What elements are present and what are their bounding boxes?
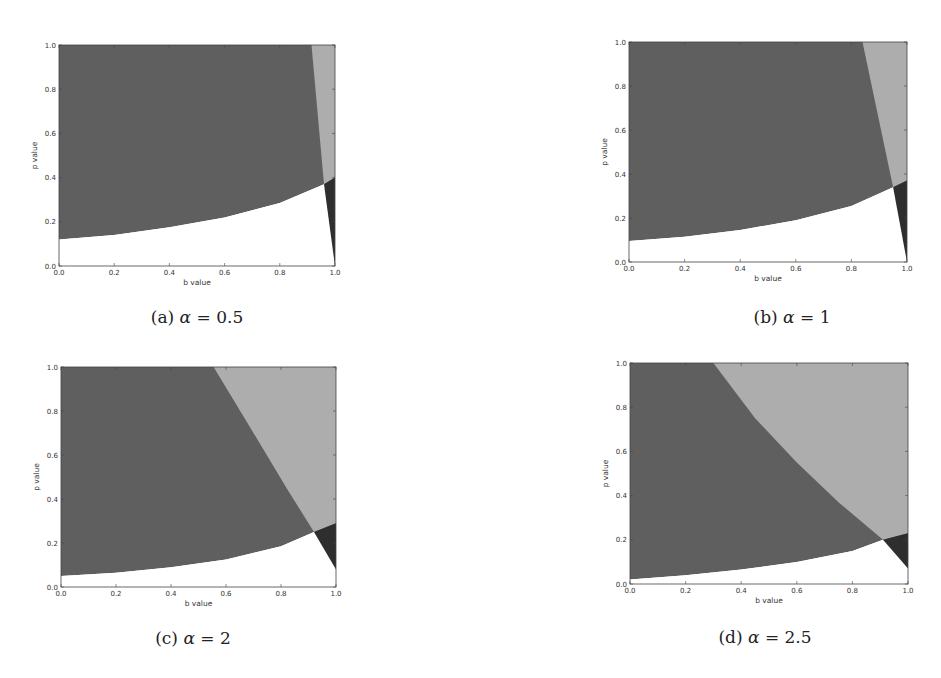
y-tick-label: 0.4	[616, 492, 628, 500]
y-tick-label: 0.8	[616, 404, 627, 412]
y-tick-label: 0.2	[616, 536, 627, 544]
y-tick-label: 1.0	[616, 360, 627, 368]
caption-label: (d)	[718, 627, 742, 647]
x-tick-label: 1.0	[902, 587, 913, 595]
chart-d: 0.00.20.40.60.81.00.00.20.40.60.81.0b va…	[0, 0, 941, 678]
x-tick-label: 0.4	[736, 587, 748, 595]
x-tick-label: 0.2	[680, 587, 691, 595]
caption-value: = 2.5	[765, 627, 812, 647]
y-tick-label: 0.0	[616, 581, 627, 589]
y-axis-label: p value	[601, 459, 610, 487]
x-tick-label: 0.6	[791, 587, 803, 595]
x-axis-label: b value	[755, 596, 783, 605]
y-tick-label: 0.6	[616, 448, 628, 456]
alpha-symbol: α	[748, 627, 759, 647]
x-tick-label: 0.8	[847, 587, 858, 595]
caption-d: (d) α = 2.5	[718, 627, 811, 647]
